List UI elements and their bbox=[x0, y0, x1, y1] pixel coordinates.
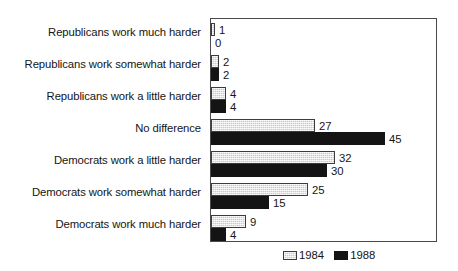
bar-1984-3 bbox=[211, 119, 315, 132]
bar-1988-1 bbox=[211, 68, 219, 81]
bar-value-1984-3: 27 bbox=[319, 121, 332, 132]
legend-swatch-1988-icon bbox=[334, 251, 348, 260]
bar-value-1988-1: 2 bbox=[223, 70, 229, 81]
bar-value-1988-6: 4 bbox=[230, 230, 236, 241]
bar-1988-3 bbox=[211, 132, 385, 145]
legend-item-1984: 1984 bbox=[283, 249, 324, 261]
category-label-1: Republicans work somewhat harder bbox=[1, 58, 201, 70]
chart-legend: 1984 1988 bbox=[283, 249, 375, 261]
bar-1984-2 bbox=[211, 87, 226, 100]
bar-1988-2 bbox=[211, 100, 226, 113]
category-label-6: Democrats work much harder bbox=[1, 218, 201, 230]
bar-value-1988-0: 0 bbox=[215, 38, 221, 49]
bar-value-1984-2: 4 bbox=[230, 89, 236, 100]
bar-value-1988-4: 30 bbox=[331, 166, 344, 177]
bar-1984-5 bbox=[211, 183, 308, 196]
category-axis-labels: Republicans work much harder Republicans… bbox=[0, 18, 205, 242]
legend-label-1988: 1988 bbox=[350, 249, 375, 261]
bar-value-1984-4: 32 bbox=[339, 153, 352, 164]
bar-1984-1 bbox=[211, 55, 219, 68]
legend-label-1984: 1984 bbox=[299, 249, 324, 261]
bars-layer: 1 0 2 2 4 4 27 45 32 30 25 15 9 4 bbox=[211, 19, 437, 241]
category-label-3: No difference bbox=[1, 122, 201, 134]
category-label-4: Democrats work a little harder bbox=[1, 154, 201, 166]
category-label-5: Democrats work somewhat harder bbox=[1, 186, 201, 198]
bar-1988-4 bbox=[211, 164, 327, 177]
bar-value-1988-2: 4 bbox=[230, 102, 236, 113]
bar-value-1988-5: 15 bbox=[273, 198, 286, 209]
bar-value-1984-5: 25 bbox=[312, 185, 325, 196]
bar-value-1984-6: 9 bbox=[250, 217, 256, 228]
category-label-0: Republicans work much harder bbox=[1, 26, 201, 38]
bar-1984-4 bbox=[211, 151, 335, 164]
grouped-bar-chart: Republicans work much harder Republicans… bbox=[0, 0, 458, 271]
bar-value-1984-0: 1 bbox=[219, 25, 225, 36]
bar-value-1988-3: 45 bbox=[389, 134, 402, 145]
bar-1988-5 bbox=[211, 196, 269, 209]
bar-1984-0 bbox=[211, 23, 215, 36]
bar-value-1984-1: 2 bbox=[223, 57, 229, 68]
bar-1984-6 bbox=[211, 215, 246, 228]
legend-item-1988: 1988 bbox=[334, 249, 375, 261]
legend-swatch-1984-icon bbox=[283, 251, 297, 260]
bar-1988-6 bbox=[211, 228, 226, 241]
category-label-2: Republicans work a little harder bbox=[1, 90, 201, 102]
